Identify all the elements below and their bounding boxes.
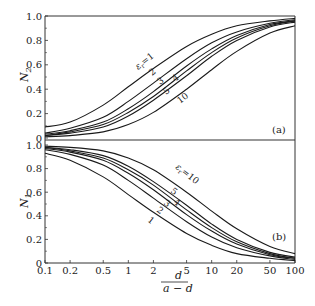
curve-label-a-5: 5 [161, 85, 172, 97]
y-tick-label: 1.0 [26, 11, 42, 22]
x-axis-title-numerator: d [175, 269, 182, 282]
x-tick-label: 0.2 [62, 265, 78, 276]
curve-eps-3 [45, 21, 295, 134]
curve-label-a-2: 2 [147, 66, 158, 77]
x-tick-label: 0.1 [37, 265, 53, 276]
y-tick-label: 0.8 [26, 35, 42, 46]
x-tick-label: 1 [125, 265, 131, 276]
y-tick-label: 0.8 [26, 163, 42, 174]
y-tick-label: 0.4 [26, 210, 42, 221]
y-tick-label: 1.0 [26, 140, 42, 151]
x-tick-label: 2 [150, 265, 156, 276]
x-axis-ticks: 0.10.20.5125102050100 [37, 260, 305, 276]
plot-frame [45, 16, 295, 263]
curves-panel-a [45, 18, 295, 136]
x-tick-label: 10 [205, 265, 218, 276]
y-tick-label: 0.2 [26, 108, 42, 119]
curve-label-a-10: 10 [175, 90, 190, 105]
x-tick-label: 100 [285, 265, 304, 276]
chart-figure: 00.20.40.60.81.0 00.20.40.60.81.0 0.10.2… [0, 0, 315, 306]
curve-labels: εr=1234510εr=1054321 [133, 51, 201, 226]
y-tick-label: 0.2 [26, 234, 42, 245]
curve-label-a-3: 3 [155, 75, 166, 87]
x-tick-label: 5 [183, 265, 189, 276]
x-axis-title-denominator: a − d [163, 282, 193, 295]
curve-eps-1 [45, 153, 295, 260]
curve-eps-10 [45, 26, 295, 137]
curve-label-b-eps10: εr=10 [173, 162, 201, 187]
x-tick-label: 50 [264, 265, 277, 276]
panel-tag-b: (b) [272, 231, 286, 242]
x-tick-label: 20 [230, 265, 243, 276]
curve-label-b-4: 4 [172, 197, 183, 209]
panel-tag-a: (a) [272, 124, 286, 135]
y-axis-title-panel-a: N2 [18, 67, 33, 83]
x-tick-label: 0.5 [95, 265, 111, 276]
y-axis-title-panel-b: N1 [18, 193, 33, 209]
curve-eps-1 [45, 18, 295, 127]
curve-label-b-1: 1 [146, 215, 157, 226]
y-tick-label: 0.4 [26, 84, 42, 95]
